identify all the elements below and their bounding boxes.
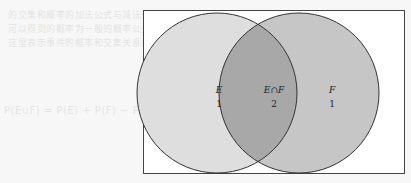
set-e-label: E xyxy=(215,85,223,95)
venn-diagram: E 1 E∩F 2 F 1 xyxy=(0,0,411,183)
set-f-label: F xyxy=(328,85,336,95)
set-f-count: 1 xyxy=(329,99,335,109)
intersection-label: E∩F xyxy=(263,85,285,95)
set-e-count: 1 xyxy=(216,99,222,109)
intersection-count: 2 xyxy=(271,99,277,109)
